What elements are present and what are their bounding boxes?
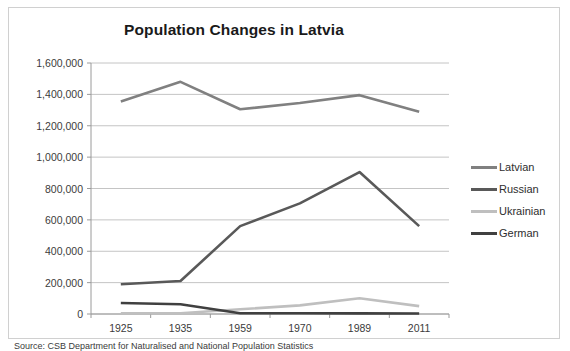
legend-item-ukrainian[interactable]: Ukrainian	[471, 200, 566, 222]
y-axis-label: 600,000	[9, 214, 83, 226]
y-axis-label: 1,200,000	[9, 120, 83, 132]
series-line-ukrainian	[121, 298, 419, 313]
legend-label: German	[497, 227, 539, 239]
x-axis-label: 1970	[270, 322, 330, 334]
x-axis-label: 1935	[151, 322, 211, 334]
legend-item-german[interactable]: German	[471, 222, 566, 244]
x-axis-label: 1959	[210, 322, 270, 334]
legend-item-russian[interactable]: Russian	[471, 178, 566, 200]
x-axis-label: 1925	[91, 322, 151, 334]
y-axis-label: 200,000	[9, 277, 83, 289]
legend-swatch-icon	[471, 166, 497, 169]
legend-label: Russian	[497, 183, 539, 195]
series-line-latvian	[121, 82, 419, 112]
legend-swatch-icon	[471, 232, 497, 235]
legend-label: Ukrainian	[497, 205, 545, 217]
legend-swatch-icon	[471, 210, 497, 213]
chart-container: Population Changes in Latvia 0200,000400…	[8, 7, 560, 339]
x-axis-label: 2011	[389, 322, 449, 334]
figure-caption: Source: CSB Department for Naturalised a…	[14, 341, 554, 351]
y-axis-label: 400,000	[9, 245, 83, 257]
y-axis-label: 800,000	[9, 183, 83, 195]
y-axis-label: 1,000,000	[9, 151, 83, 163]
y-axis-label: 0	[9, 308, 83, 320]
y-axis-label: 1,600,000	[9, 57, 83, 69]
chart-legend: LatvianRussianUkrainianGerman	[471, 156, 566, 244]
legend-item-latvian[interactable]: Latvian	[471, 156, 566, 178]
x-axis-label: 1989	[330, 322, 390, 334]
legend-label: Latvian	[497, 161, 534, 173]
legend-swatch-icon	[471, 188, 497, 191]
y-axis-label: 1,400,000	[9, 88, 83, 100]
